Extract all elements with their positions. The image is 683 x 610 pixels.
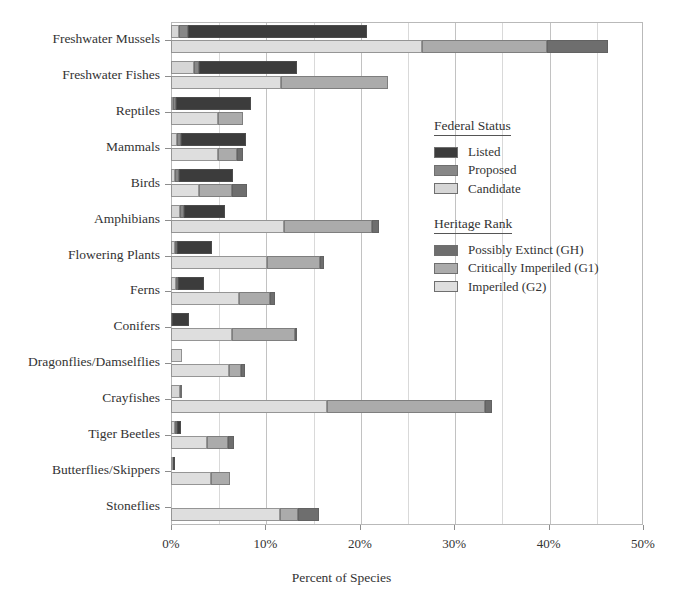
legend-federal-item[interactable]: Candidate xyxy=(434,181,521,197)
x-axis-tick-label: 10% xyxy=(253,536,277,552)
bar-segment xyxy=(241,364,245,377)
x-axis-tick xyxy=(454,525,455,530)
bar-segment xyxy=(229,364,241,377)
bar-segment xyxy=(218,112,243,125)
bar-segment xyxy=(295,328,297,341)
bar-segment xyxy=(171,400,327,413)
category-label: Birds xyxy=(131,175,160,191)
bar-segment xyxy=(228,436,235,449)
bar-segment xyxy=(177,421,182,434)
legend-label: Critically Imperiled (G1) xyxy=(468,260,599,276)
bar-segment xyxy=(485,400,492,413)
bar-segment xyxy=(232,184,246,197)
legend-heritage-item[interactable]: Critically Imperiled (G1) xyxy=(434,260,599,276)
bar-segment xyxy=(179,25,188,38)
x-axis-tick-label: 0% xyxy=(162,536,179,552)
bar-segment xyxy=(372,220,379,233)
legend-heritage-item[interactable]: Imperiled (G2) xyxy=(434,279,599,295)
bar-segment xyxy=(171,112,218,125)
bar-segment xyxy=(199,61,296,74)
category-label: Stoneflies xyxy=(106,498,160,514)
legend-federal-item[interactable]: Proposed xyxy=(434,162,521,178)
bar-segment xyxy=(547,40,608,53)
legend-swatch-icon xyxy=(434,281,458,292)
legend-heritage-rank: Heritage Rank Possibly Extinct (GH)Criti… xyxy=(434,216,599,297)
bar-segment xyxy=(327,400,486,413)
legend-swatch-icon xyxy=(434,165,458,176)
bar-heritage-rank xyxy=(171,328,643,341)
bar-heritage-rank xyxy=(171,472,643,485)
category-label: Crayfishes xyxy=(102,390,160,406)
bar-segment xyxy=(184,205,225,218)
bar-federal-status xyxy=(171,349,643,362)
bar-segment xyxy=(171,25,179,38)
category-label: Flowering Plants xyxy=(68,247,160,263)
legend-federal-status: Federal Status ListedProposedCandidate xyxy=(434,118,521,199)
bar-segment xyxy=(171,256,267,269)
bar-federal-status xyxy=(171,457,643,470)
bar-segment xyxy=(232,328,294,341)
bar-segment xyxy=(237,148,243,161)
category-label: Tiger Beetles xyxy=(88,426,160,442)
bar-segment xyxy=(280,508,299,521)
bar-segment xyxy=(173,457,175,470)
category-label: Reptiles xyxy=(116,103,160,119)
bar-segment xyxy=(270,292,275,305)
bar-segment xyxy=(239,292,270,305)
bar-segment xyxy=(171,76,281,89)
bar-segment xyxy=(218,148,237,161)
bar-segment xyxy=(188,25,367,38)
legend-swatch-icon xyxy=(434,245,458,256)
bar-segment xyxy=(199,184,232,197)
category-label: Mammals xyxy=(106,139,160,155)
bar-segment xyxy=(171,61,194,74)
bar-segment xyxy=(207,436,228,449)
category-label: Ferns xyxy=(130,282,160,298)
bar-segment xyxy=(179,169,234,182)
bar-federal-status xyxy=(171,313,643,326)
legend-heritage-title: Heritage Rank xyxy=(434,216,512,234)
bar-segment xyxy=(298,508,319,521)
x-axis-tick xyxy=(549,525,550,530)
legend-heritage-item[interactable]: Possibly Extinct (GH) xyxy=(434,242,599,258)
category-label: Dragonflies/Damselflies xyxy=(28,354,160,370)
x-axis-tick xyxy=(360,525,361,530)
legend-swatch-icon xyxy=(434,263,458,274)
bar-segment xyxy=(422,40,547,53)
bar-federal-status xyxy=(171,421,643,434)
bar-segment xyxy=(180,385,182,398)
x-axis-title: Percent of Species xyxy=(0,570,683,586)
bar-segment xyxy=(172,313,189,326)
bar-heritage-rank xyxy=(171,112,643,125)
species-imperilment-chart: Freshwater MusselsFreshwater FishesRepti… xyxy=(0,0,683,610)
legend-swatch-icon xyxy=(434,147,458,158)
bar-segment xyxy=(267,256,320,269)
x-axis-tick-label: 50% xyxy=(631,536,655,552)
bar-heritage-rank xyxy=(171,184,643,197)
bar-federal-status xyxy=(171,385,643,398)
legend-label: Proposed xyxy=(468,162,516,178)
legend-label: Candidate xyxy=(468,181,521,197)
bar-segment xyxy=(171,385,180,398)
bar-segment xyxy=(320,256,324,269)
bar-segment xyxy=(171,436,207,449)
bar-heritage-rank xyxy=(171,40,643,53)
bar-segment xyxy=(171,148,218,161)
legend-federal-item[interactable]: Listed xyxy=(434,144,521,160)
x-axis-tick xyxy=(643,525,644,530)
bar-segment xyxy=(171,205,180,218)
legend-label: Imperiled (G2) xyxy=(468,279,546,295)
category-label: Freshwater Mussels xyxy=(52,31,160,47)
bar-segment xyxy=(281,76,389,89)
category-label: Conifers xyxy=(114,318,161,334)
y-axis-labels: Freshwater MusselsFreshwater FishesRepti… xyxy=(0,22,166,525)
bar-segment xyxy=(181,133,245,146)
bar-federal-status xyxy=(171,133,643,146)
category-label: Amphibians xyxy=(94,211,160,227)
bar-heritage-rank xyxy=(171,76,643,89)
bar-segment xyxy=(178,277,204,290)
legend-federal-title: Federal Status xyxy=(434,118,511,136)
bar-heritage-rank xyxy=(171,148,643,161)
bar-segment xyxy=(171,292,239,305)
bar-segment xyxy=(211,472,230,485)
